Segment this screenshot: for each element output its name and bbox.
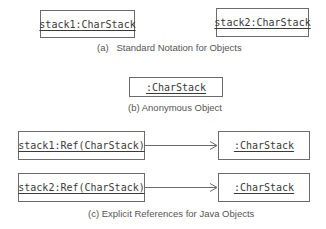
reference-arrows (0, 0, 326, 229)
caption-c: (c) Explicit References for Java Objects (88, 208, 254, 219)
uml-object-diagram: stack1:CharStack stack2:CharStack (a) St… (0, 0, 326, 229)
arrow-icon (145, 142, 217, 150)
arrow-icon (145, 184, 217, 192)
